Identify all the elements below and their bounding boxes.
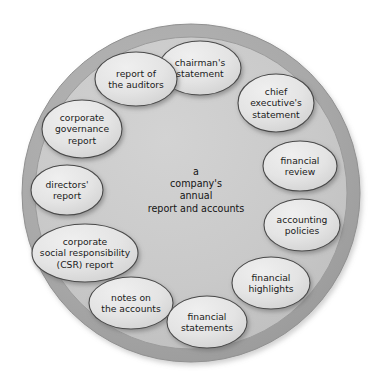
node-ellipse-csr-report — [32, 224, 138, 282]
node-ellipse-directors-report — [31, 165, 103, 215]
node-ellipse-corporate-governance-report — [42, 100, 122, 158]
node-ellipse-accounting-policies — [264, 199, 340, 251]
node-ellipse-financial-statements — [167, 296, 247, 348]
node-ellipse-notes-on-the-accounts — [89, 277, 173, 329]
annual-report-wheel-diagram: chairman's statementreport of the audito… — [0, 0, 374, 381]
node-ellipse-financial-review — [263, 141, 337, 191]
diagram-canvas — [0, 0, 374, 381]
node-ellipse-chief-executives-statement — [238, 74, 314, 132]
node-ellipse-financial-highlights — [232, 257, 310, 309]
node-ellipse-report-of-the-auditors — [95, 52, 177, 106]
